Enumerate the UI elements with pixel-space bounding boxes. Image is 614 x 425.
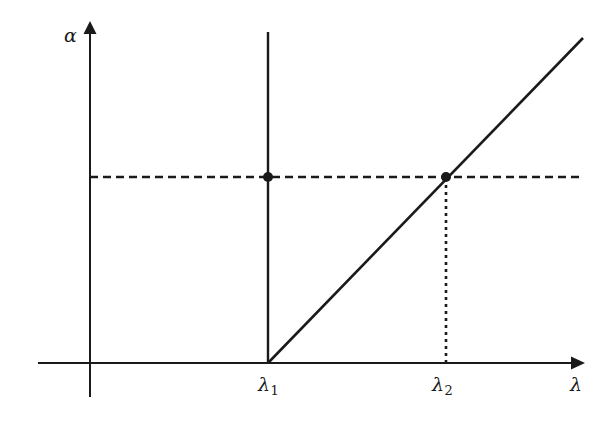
x-axis-arrow-icon [571,357,585,370]
tick-label-lambda-2-symbol: λ [432,373,444,395]
y-axis-label-alpha: α [64,26,77,45]
tick-label-lambda-2: λ2 [432,375,452,394]
tick-label-lambda-1: λ1 [258,375,278,394]
tick-label-lambda-2-subscript: 2 [445,383,453,398]
diagram-svg [0,0,614,425]
intersection-point-vertical-branch [263,172,273,182]
y-axis-arrow-icon [84,21,97,34]
intersection-point-diagonal-branch [441,172,451,182]
x-axis [38,357,585,370]
x-axis-label-lambda: λ [570,375,582,394]
y-axis [84,21,97,397]
diagonal-branch [268,38,583,363]
tick-label-lambda-1-subscript: 1 [271,383,279,398]
figure-canvas: α λ λ1 λ2 [0,0,614,425]
tick-label-lambda-1-symbol: λ [258,373,270,395]
